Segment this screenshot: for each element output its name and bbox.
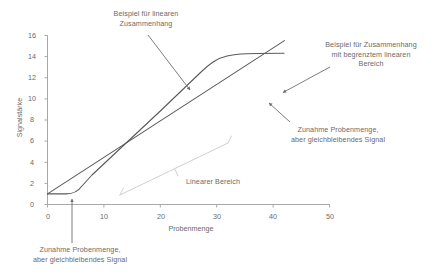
y-tick-label-2: 2	[24, 179, 40, 188]
y-tick-label-14: 14	[24, 52, 40, 61]
y-tick-label-4: 4	[24, 158, 40, 167]
annotation-example-limited-linear: Beispiel für Zusammenhang mit begrenztem…	[300, 40, 442, 69]
x-axis-title: Probenmenge	[153, 224, 229, 233]
x-tick-label-30: 30	[207, 212, 227, 221]
y-tick-label-16: 16	[24, 31, 40, 40]
x-tick-label-0: 0	[38, 212, 58, 221]
annotation-example-linear: Beispiel für linearen Zusammenhang	[80, 9, 212, 28]
arrow-example-linear	[148, 35, 190, 90]
y-tick-label-10: 10	[24, 94, 40, 103]
arrow-plateau-right	[269, 103, 290, 122]
y-tick-label-0: 0	[24, 200, 40, 209]
series-linear-line	[48, 41, 285, 194]
chart-figure: 16 14 12 10 8 6 4 2 0 0 10 20 30 40 50 S…	[0, 0, 444, 278]
annotation-plateau-right: Zunahme Probenmenge, aber gleichbleibend…	[258, 125, 418, 144]
y-tick-label-12: 12	[24, 73, 40, 82]
x-tick-label-40: 40	[263, 212, 283, 221]
y-axis-title: Signalstärke	[15, 83, 24, 153]
arrow-example-limited-linear	[283, 67, 330, 93]
y-tick-label-6: 6	[24, 136, 40, 145]
x-tick-label-10: 10	[94, 212, 114, 221]
annotation-plateau-bottom: Zunahme Probenmenge, aber gleichbleibend…	[6, 245, 154, 264]
x-tick-label-50: 50	[320, 212, 340, 221]
annotation-linear-range: Linearer Bereich	[186, 177, 276, 187]
x-tick-label-20: 20	[151, 212, 171, 221]
y-tick-label-8: 8	[24, 115, 40, 124]
